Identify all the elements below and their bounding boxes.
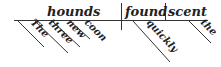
object-word: scent (168, 4, 207, 19)
verb-word: found (124, 4, 167, 19)
sentence-diagram: hounds found scent The three new coon qu… (0, 0, 221, 67)
modifier-quickly: quickly (145, 17, 182, 55)
